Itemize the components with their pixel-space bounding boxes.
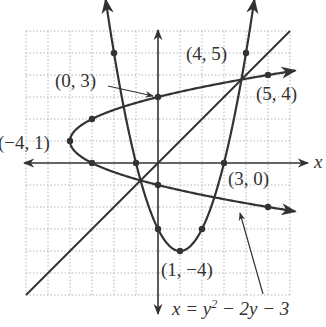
- data-point: [265, 72, 271, 78]
- data-point: [243, 50, 249, 56]
- data-point: [111, 50, 117, 56]
- label-point-5-4: (5, 4): [256, 84, 297, 103]
- x-axis-label: x: [314, 152, 322, 171]
- equation-label: x = y2 − 2y − 3: [172, 298, 289, 318]
- label-point-1-minus4: (1, −4): [161, 260, 213, 279]
- equation-rhs: − 2y − 3: [217, 298, 289, 319]
- data-point: [67, 138, 73, 144]
- data-point: [221, 160, 227, 166]
- callout-arrow-0-3: [108, 86, 153, 96]
- data-point: [133, 160, 139, 166]
- data-point: [265, 204, 271, 210]
- label-point-minus4-1: (−4, 1): [0, 133, 50, 152]
- label-point-4-5: (4, 5): [186, 44, 227, 63]
- data-point: [89, 160, 95, 166]
- equation-lhs: x = y: [172, 298, 211, 319]
- data-point: [155, 226, 161, 232]
- data-point: [155, 94, 161, 100]
- data-point: [155, 182, 161, 188]
- label-point-3-0: (3, 0): [228, 169, 269, 188]
- callout-arrow-equation: [240, 213, 263, 294]
- label-point-0-3: (0, 3): [55, 71, 96, 90]
- data-point: [89, 116, 95, 122]
- data-point: [199, 226, 205, 232]
- data-point: [177, 248, 183, 254]
